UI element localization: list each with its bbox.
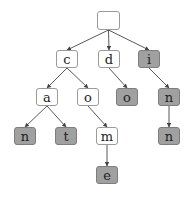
- trie-node-d: d: [98, 50, 120, 68]
- edge-arrow: [67, 68, 88, 88]
- trie-node-a: a: [36, 88, 58, 106]
- trie-node-i: i: [138, 50, 160, 68]
- trie-diagram: cdiaoonntmne: [0, 0, 193, 198]
- trie-node-o: o: [77, 88, 99, 106]
- trie-node-o: o: [116, 88, 138, 106]
- edge-arrow: [25, 106, 47, 127]
- trie-node-c: c: [56, 50, 78, 68]
- edge-arrow: [109, 68, 127, 88]
- edge-arrow: [47, 106, 66, 127]
- trie-node-n: n: [158, 88, 180, 106]
- edge-arrow: [88, 106, 107, 127]
- trie-node-m: m: [96, 127, 118, 145]
- edge-arrow: [109, 30, 150, 50]
- edge-arrow: [67, 30, 109, 50]
- trie-node-root: [97, 11, 120, 30]
- edge-arrow: [47, 68, 67, 88]
- trie-node-n: n: [14, 127, 36, 145]
- edge-arrow: [109, 30, 110, 50]
- trie-node-e: e: [96, 166, 118, 184]
- trie-node-t: t: [55, 127, 77, 145]
- trie-node-n: n: [158, 127, 180, 145]
- edge-arrow: [149, 68, 169, 88]
